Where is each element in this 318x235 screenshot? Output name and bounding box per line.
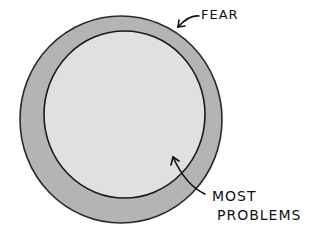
problems-label: PROBLeMS (217, 208, 301, 222)
most-label: MOST (212, 189, 257, 203)
fear-label: FeaR (201, 8, 239, 21)
fear-arrow-icon (178, 16, 199, 27)
diagram-canvas (0, 0, 318, 235)
